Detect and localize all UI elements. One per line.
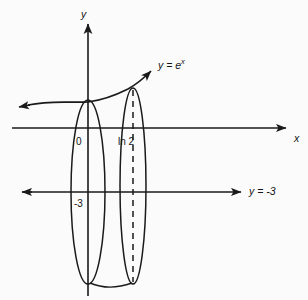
figure-canvas [0,0,308,300]
curve-label-exponent: x [181,57,185,66]
origin-tick-label: 0 [76,137,82,147]
neg3-tick-label: -3 [74,199,83,209]
asymptote-label: y = -3 [249,186,276,197]
ln2-tick-label: ln 2 [118,137,134,147]
math-figure: y = ex x y 0 ln 2 -3 y = -3 [0,0,308,300]
disk-bottom-connector [90,283,132,287]
x-axis-label: x [294,133,299,144]
curve-label-text: y = e [158,59,181,71]
y-axis-label: y [81,9,86,20]
exponential-curve-left-arrow [19,105,30,107]
curve-label: y = ex [158,58,185,70]
